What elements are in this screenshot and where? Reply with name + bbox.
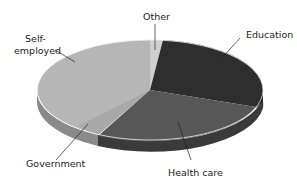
label-self-employed-1: Self-: [25, 33, 46, 44]
label-health-care: Health care: [168, 167, 223, 178]
pie-chart: Other Education Self- employed Governmen…: [0, 0, 297, 187]
label-other: Other: [143, 11, 170, 22]
label-education: Education: [246, 29, 293, 40]
label-government: Government: [26, 158, 86, 169]
label-self-employed-2: employed: [14, 45, 61, 56]
pie-slices: [37, 40, 263, 141]
